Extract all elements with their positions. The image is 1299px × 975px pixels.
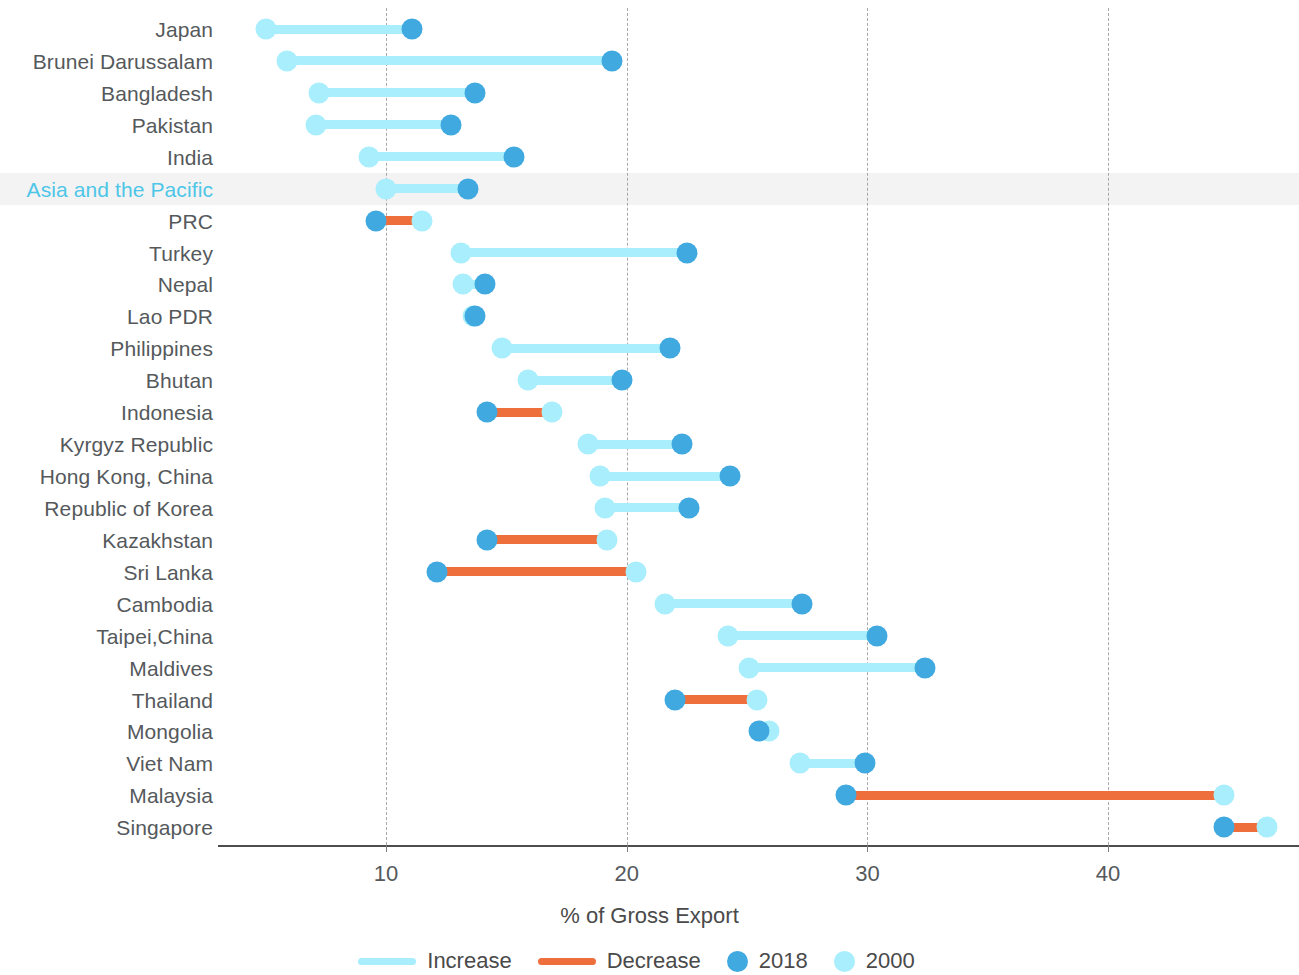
category-label: Bangladesh: [101, 83, 213, 104]
data-point-2018: [477, 402, 498, 423]
data-point-2000: [590, 466, 611, 487]
category-label: Cambodia: [116, 594, 213, 615]
data-point-2000: [359, 146, 380, 167]
data-point-2018: [477, 529, 498, 550]
legend-label: Decrease: [607, 950, 701, 972]
data-point-2018: [602, 50, 623, 71]
category-label: Republic of Korea: [44, 498, 213, 519]
data-point-2000: [626, 561, 647, 582]
category-label: Asia and the Pacific: [27, 179, 213, 200]
connector-increase: [287, 56, 612, 65]
legend-line-swatch-icon: [538, 958, 596, 965]
connector-increase: [316, 120, 451, 129]
category-label: India: [167, 147, 213, 168]
category-label: Japan: [155, 19, 213, 40]
legend-dot-swatch-icon: [834, 951, 855, 972]
data-point-2018: [1213, 817, 1234, 838]
data-point-2000: [376, 178, 397, 199]
data-point-2000: [578, 434, 599, 455]
data-point-2018: [664, 689, 685, 710]
data-point-2018: [854, 753, 875, 774]
category-label: Brunei Darussalam: [33, 51, 213, 72]
data-point-2018: [465, 306, 486, 327]
data-point-2000: [306, 114, 327, 135]
data-point-2018: [503, 146, 524, 167]
data-point-2000: [453, 274, 474, 295]
data-point-2018: [660, 338, 681, 359]
data-point-2018: [792, 593, 813, 614]
connector-increase: [266, 25, 413, 34]
data-point-2018: [366, 210, 387, 231]
connector-increase: [461, 248, 687, 257]
connector-increase: [528, 376, 622, 385]
category-label: Malaysia: [129, 785, 213, 806]
connector-increase: [605, 503, 689, 512]
data-point-2018: [426, 561, 447, 582]
data-point-2018: [402, 19, 423, 40]
data-point-2000: [412, 210, 433, 231]
data-point-2000: [595, 497, 616, 518]
category-label: Nepal: [158, 274, 213, 295]
data-point-2000: [277, 50, 298, 71]
category-label: Indonesia: [121, 402, 213, 423]
connector-increase: [749, 663, 925, 672]
x-tick-label: 30: [855, 863, 879, 885]
category-label: Mongolia: [127, 721, 213, 742]
data-point-2018: [440, 114, 461, 135]
connector-increase: [600, 472, 730, 481]
category-label: Maldives: [129, 658, 213, 679]
x-tick-mark: [1108, 845, 1109, 852]
legend-item[interactable]: Decrease: [538, 950, 701, 972]
legend-line-swatch-icon: [358, 958, 416, 965]
category-label: Thailand: [132, 690, 213, 711]
data-point-2018: [672, 434, 693, 455]
category-label: Kyrgyz Republic: [60, 434, 213, 455]
category-label: Hong Kong, China: [40, 466, 213, 487]
gridline-40: [1108, 8, 1109, 845]
data-point-2018: [457, 178, 478, 199]
x-axis-title: % of Gross Export: [0, 905, 1299, 927]
connector-increase: [588, 440, 682, 449]
category-label: Pakistan: [132, 115, 213, 136]
data-point-2018: [720, 466, 741, 487]
data-point-2000: [597, 529, 618, 550]
data-point-2000: [542, 402, 563, 423]
connector-decrease: [487, 535, 607, 544]
data-point-2018: [611, 370, 632, 391]
legend-label: 2000: [866, 950, 915, 972]
data-point-2000: [1256, 817, 1277, 838]
x-tick-mark: [627, 845, 628, 852]
x-tick-label: 10: [374, 863, 398, 885]
data-point-2018: [749, 721, 770, 742]
data-point-2018: [867, 625, 888, 646]
data-point-2018: [676, 242, 697, 263]
gridline-30: [867, 8, 868, 845]
data-point-2018: [679, 497, 700, 518]
connector-increase: [728, 631, 877, 640]
category-label: Taipei,China: [96, 626, 213, 647]
connector-decrease: [846, 791, 1224, 800]
data-point-2000: [717, 625, 738, 646]
x-axis-line: [218, 845, 1299, 847]
legend-dot-swatch-icon: [727, 951, 748, 972]
category-label: Viet Nam: [126, 753, 213, 774]
data-point-2018: [474, 274, 495, 295]
legend-item[interactable]: 2000: [834, 950, 915, 972]
data-point-2000: [1213, 785, 1234, 806]
data-point-2000: [746, 689, 767, 710]
x-tick-label: 20: [614, 863, 638, 885]
connector-increase: [369, 152, 513, 161]
dumbbell-chart: JapanBrunei DarussalamBangladeshPakistan…: [0, 0, 1299, 975]
category-label: PRC: [168, 211, 213, 232]
legend-item[interactable]: Increase: [358, 950, 511, 972]
legend-label: Increase: [427, 950, 511, 972]
data-point-2000: [491, 338, 512, 359]
connector-decrease: [437, 567, 637, 576]
data-point-2018: [915, 657, 936, 678]
data-point-2018: [835, 785, 856, 806]
data-point-2000: [308, 82, 329, 103]
data-point-2000: [790, 753, 811, 774]
legend-item[interactable]: 2018: [727, 950, 808, 972]
category-label: Lao PDR: [127, 306, 213, 327]
connector-increase: [386, 184, 468, 193]
